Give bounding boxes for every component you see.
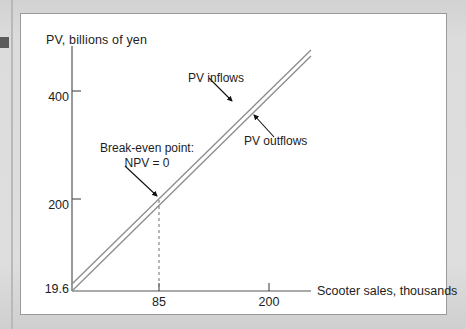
y-tick-label-200: 200 (29, 198, 69, 212)
pv-outflows-line (72, 56, 311, 291)
y-tick-label-19-6: 19.6 (22, 282, 69, 296)
figure-card: PV, billions of yen 400 200 19.6 (20, 13, 447, 315)
x-axis-title: Scooter sales, thousands (317, 284, 457, 298)
pv-inflows-label: PV inflows (188, 71, 244, 86)
x-tick-label-200: 200 (249, 295, 289, 309)
y-tick-label-400: 400 (29, 90, 69, 104)
breakeven-annotation-line2: NPV = 0 (85, 156, 209, 171)
x-tick-label-85: 85 (139, 295, 179, 309)
page-edge-mark (0, 37, 9, 48)
pv-outflows-label: PV outflows (244, 134, 307, 149)
book-spine-line (11, 0, 13, 329)
breakeven-annotation: Break-even point: NPV = 0 (85, 141, 209, 171)
breakeven-annotation-line1: Break-even point: (85, 141, 209, 156)
